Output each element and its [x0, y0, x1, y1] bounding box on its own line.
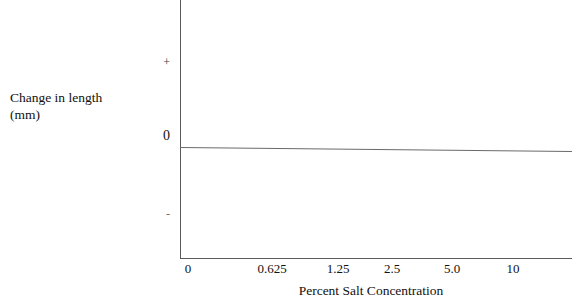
y-axis-label-line-1: Change in length: [10, 89, 150, 106]
y-tick-negative: -: [146, 208, 170, 220]
x-tick-label: 1.25: [327, 261, 350, 277]
y-axis-line: [180, 0, 181, 259]
x-tick-label: 5.0: [444, 261, 460, 277]
y-tick-zero: 0: [146, 130, 170, 142]
zero-reference-line-svg: [180, 142, 572, 156]
plot-area: [181, 0, 572, 258]
y-axis-label-line-2: (mm): [10, 106, 150, 123]
x-tick-label: 10: [507, 261, 520, 277]
x-tick-label: 0.625: [257, 261, 286, 277]
graph-figure: Change in length (mm) + 0 - 0 0.625 1.25…: [0, 0, 579, 300]
x-tick-label: 2.5: [384, 261, 400, 277]
y-tick-positive: +: [146, 56, 170, 68]
x-axis-label: Percent Salt Concentration: [299, 283, 444, 299]
x-axis-line: [180, 258, 572, 259]
y-axis-label: Change in length (mm): [10, 89, 150, 123]
x-tick-label: 0: [185, 261, 192, 277]
zero-reference-line: [180, 142, 572, 156]
